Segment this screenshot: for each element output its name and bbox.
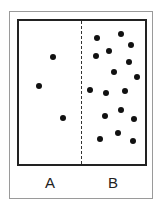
particle-dot (93, 53, 99, 59)
dashed-divider (81, 21, 82, 164)
particle-dot (122, 88, 128, 94)
particle-dot (128, 42, 134, 48)
zone-a-label: A (45, 174, 55, 191)
particle-dot (115, 130, 121, 136)
particle-dot (134, 74, 140, 80)
particle-dot (94, 35, 100, 41)
particle-dot (106, 48, 112, 54)
particle-dot (111, 69, 117, 75)
zone-b-label: B (108, 174, 118, 191)
particle-dot (130, 138, 136, 144)
particle-dot (36, 83, 42, 89)
particle-dot (131, 116, 137, 122)
particle-dot (103, 90, 109, 96)
particle-dot (60, 115, 66, 121)
particle-dot (102, 113, 108, 119)
particle-dot (118, 31, 124, 37)
particle-dot (126, 59, 132, 65)
particle-dot (87, 87, 93, 93)
particle-dot (97, 136, 103, 142)
particle-dot (50, 54, 56, 60)
particle-dot (118, 107, 124, 113)
